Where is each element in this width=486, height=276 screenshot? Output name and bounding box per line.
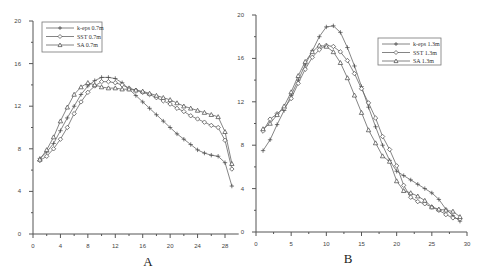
triangle-marker-icon bbox=[366, 128, 370, 132]
legend-entry-label: SA 1.3m bbox=[413, 58, 434, 64]
diamond-marker-icon bbox=[416, 199, 420, 203]
triangle-marker-icon bbox=[296, 74, 300, 78]
legend-entry-label: SST 1.3m bbox=[413, 50, 437, 56]
diamond-marker-icon bbox=[175, 106, 179, 110]
diamond-marker-icon bbox=[106, 80, 110, 84]
plus-marker-icon bbox=[113, 76, 117, 80]
x-tick-label: 0 bbox=[254, 241, 258, 247]
y-tick-label: 12 bbox=[14, 103, 21, 109]
y-tick-label: 20 bbox=[14, 18, 21, 24]
triangle-marker-icon bbox=[317, 43, 321, 47]
series-sst-0-7m bbox=[38, 80, 234, 172]
triangle-marker-icon bbox=[175, 101, 179, 105]
plus-marker-icon bbox=[380, 143, 384, 147]
triangle-marker-icon bbox=[223, 130, 227, 134]
y-tick-label: 8 bbox=[18, 146, 22, 152]
legend: k-eps 1.3mSST 1.3mSA 1.3m bbox=[378, 38, 441, 65]
x-tick-label: 4 bbox=[59, 243, 63, 249]
triangle-marker-icon bbox=[58, 119, 62, 123]
chart-panel-b: 048121620051015202530k-eps 1.3mSST 1.3mS… bbox=[237, 12, 471, 266]
legend-entry-label: k-eps 0.7m bbox=[77, 25, 104, 31]
diamond-marker-icon bbox=[230, 167, 234, 171]
triangle-marker-icon bbox=[182, 104, 186, 108]
x-tick-label: 25 bbox=[428, 241, 435, 247]
diamond-marker-icon bbox=[352, 71, 356, 75]
panel-label: A bbox=[143, 254, 153, 269]
legend-entry-label: SST 0.7m bbox=[77, 34, 101, 40]
plus-marker-icon bbox=[423, 186, 427, 190]
y-tick-label: 0 bbox=[18, 231, 22, 237]
diamond-marker-icon bbox=[189, 114, 193, 118]
x-tick-label: 24 bbox=[194, 243, 201, 249]
chart-panel-a: 0481216200481216202428k-eps 0.7mSST 0.7m… bbox=[14, 18, 238, 269]
triangle-marker-icon bbox=[338, 61, 342, 65]
x-tick-label: 0 bbox=[31, 243, 35, 249]
diamond-marker-icon bbox=[373, 116, 377, 120]
triangle-marker-icon bbox=[359, 110, 363, 114]
plus-marker-icon bbox=[99, 75, 103, 79]
diamond-marker-icon bbox=[409, 195, 413, 199]
triangle-marker-icon bbox=[352, 93, 356, 97]
triangle-marker-icon bbox=[86, 81, 90, 85]
triangle-marker-icon bbox=[345, 76, 349, 80]
plus-marker-icon bbox=[72, 104, 76, 108]
x-tick-label: 15 bbox=[358, 241, 365, 247]
diamond-marker-icon bbox=[113, 81, 117, 85]
triangle-marker-icon bbox=[380, 154, 384, 158]
y-tick-label: 0 bbox=[241, 229, 245, 235]
y-tick-label: 4 bbox=[241, 186, 245, 192]
triangle-marker-icon bbox=[51, 135, 55, 139]
x-tick-label: 20 bbox=[393, 241, 400, 247]
diamond-marker-icon bbox=[72, 111, 76, 115]
figure-canvas: 0481216200481216202428k-eps 0.7mSST 0.7m… bbox=[0, 0, 486, 276]
x-tick-label: 10 bbox=[323, 241, 330, 247]
diamond-marker-icon bbox=[296, 81, 300, 85]
x-tick-label: 5 bbox=[289, 241, 293, 247]
plus-marker-icon bbox=[275, 122, 279, 126]
triangle-marker-icon bbox=[416, 194, 420, 198]
x-tick-label: 12 bbox=[112, 243, 119, 249]
diamond-marker-icon bbox=[451, 216, 455, 220]
y-tick-label: 4 bbox=[18, 188, 22, 194]
x-tick-label: 28 bbox=[222, 243, 229, 249]
triangle-marker-icon bbox=[79, 85, 83, 89]
diamond-marker-icon bbox=[380, 134, 384, 138]
plus-marker-icon bbox=[352, 64, 356, 68]
legend: k-eps 0.7mSST 0.7mSA 0.7m bbox=[42, 22, 104, 52]
diamond-marker-icon bbox=[366, 101, 370, 105]
plus-marker-icon bbox=[416, 182, 420, 186]
plus-marker-icon bbox=[58, 128, 62, 132]
diamond-marker-icon bbox=[444, 212, 448, 216]
y-tick-label: 16 bbox=[14, 61, 21, 67]
diamond-marker-icon bbox=[65, 125, 69, 129]
x-tick-label: 8 bbox=[86, 243, 90, 249]
diamond-marker-icon bbox=[216, 125, 220, 129]
diamond-marker-icon bbox=[402, 183, 406, 187]
plus-marker-icon bbox=[345, 45, 349, 49]
plus-marker-icon bbox=[209, 153, 213, 157]
diamond-marker-icon bbox=[202, 120, 206, 124]
y-tick-label: 8 bbox=[241, 142, 245, 148]
diamond-marker-icon bbox=[209, 123, 213, 127]
plus-marker-icon bbox=[65, 116, 69, 120]
plus-marker-icon bbox=[268, 138, 272, 142]
diamond-marker-icon bbox=[195, 117, 199, 121]
plus-marker-icon bbox=[373, 125, 377, 129]
triangle-marker-icon bbox=[423, 198, 427, 202]
triangle-marker-icon bbox=[65, 105, 69, 109]
plus-marker-icon bbox=[409, 178, 413, 182]
diamond-marker-icon bbox=[182, 109, 186, 113]
triangle-marker-icon bbox=[394, 179, 398, 183]
x-tick-label: 16 bbox=[139, 243, 146, 249]
panel-label: B bbox=[344, 251, 353, 266]
plus-marker-icon bbox=[106, 75, 110, 79]
legend-entry-label: SA 0.7m bbox=[77, 42, 98, 48]
x-tick-label: 20 bbox=[167, 243, 174, 249]
plus-marker-icon bbox=[230, 184, 234, 188]
y-tick-label: 16 bbox=[237, 55, 244, 61]
diamond-marker-icon bbox=[168, 102, 172, 106]
diamond-marker-icon bbox=[387, 147, 391, 151]
x-tick-label: 30 bbox=[464, 241, 471, 247]
legend-entry-label: k-eps 1.3m bbox=[413, 41, 440, 47]
triangle-marker-icon bbox=[373, 141, 377, 145]
